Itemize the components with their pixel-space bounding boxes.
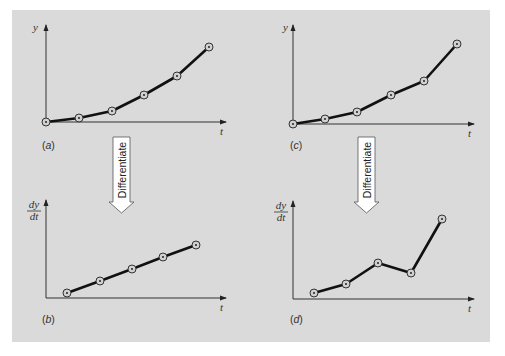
data-point-center	[456, 43, 458, 45]
x-axis-label: t	[468, 302, 472, 314]
panel-label-a: (a)	[42, 139, 55, 151]
data-point-center	[377, 262, 379, 264]
panel-label-b: (b)	[42, 313, 55, 325]
y-axis-label-numerator: dy	[29, 198, 40, 210]
data-point-center	[345, 283, 347, 285]
y-axis-label-numerator: dy	[276, 199, 287, 211]
y-axis-label-denominator: dt	[30, 210, 40, 222]
differentiate-arrow-right: Differentiate	[354, 137, 379, 213]
differentiate-label: Differentiate	[361, 142, 373, 199]
data-point-center	[324, 118, 326, 120]
data-point-center	[441, 218, 443, 220]
graph-d: dy dt t (d)	[274, 199, 474, 325]
data-point-center	[195, 244, 197, 246]
data-point-center	[131, 268, 133, 270]
data-point-center	[390, 94, 392, 96]
y-axis-label-denominator: dt	[277, 211, 287, 223]
data-series-b	[63, 241, 200, 297]
data-point-center	[111, 110, 113, 112]
y-axis-label: y	[282, 21, 288, 33]
y-axis-label: y	[32, 21, 38, 33]
differentiate-label: Differentiate	[116, 142, 128, 199]
data-line	[46, 47, 209, 122]
data-point-center	[208, 46, 210, 48]
data-point-center	[423, 80, 425, 82]
data-point-center	[356, 111, 358, 113]
x-axis-label: t	[468, 127, 472, 139]
data-point-center	[78, 117, 80, 119]
data-point-center	[162, 256, 164, 258]
data-point-center	[99, 280, 101, 282]
differentiate-arrow-left: Differentiate	[109, 137, 134, 213]
data-series-c	[289, 40, 461, 128]
data-point-center	[410, 272, 412, 274]
x-axis-label: t	[220, 125, 224, 137]
data-line	[314, 219, 442, 293]
data-series-a	[42, 43, 213, 126]
data-point-center	[292, 123, 294, 125]
graph-a: y t (a)	[32, 21, 226, 151]
data-point-center	[45, 121, 47, 123]
graph-c: y t (c)	[282, 21, 474, 151]
x-axis-label: t	[220, 301, 224, 313]
data-point-center	[313, 292, 315, 294]
data-line	[293, 44, 457, 124]
derivative-figure: y t (a) y t (c) dy dt t (b) dy dt t (d)	[0, 0, 505, 356]
panel-label-c: (c)	[290, 139, 302, 151]
data-point-center	[176, 75, 178, 77]
panel-label-d: (d)	[290, 313, 303, 325]
data-point-center	[143, 94, 145, 96]
graph-b: dy dt t (b)	[27, 198, 226, 325]
data-point-center	[66, 292, 68, 294]
data-series-d	[310, 215, 446, 297]
